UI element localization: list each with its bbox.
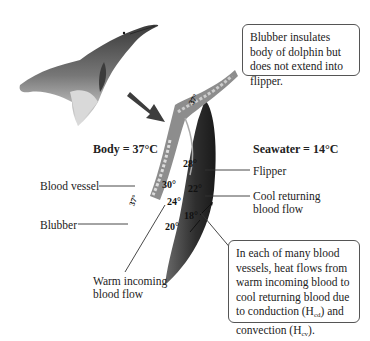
callout-heat-text-3: ). <box>308 324 315 336</box>
body-temperature-label: Body = 37°C <box>93 142 158 156</box>
warm-incoming-label-line2: blood flow <box>93 287 143 301</box>
temp-18: 18° <box>184 210 198 221</box>
cool-returning-label-line2: blood flow <box>253 202 303 216</box>
subscript-cd: cd <box>314 311 321 319</box>
temp-24: 24° <box>167 196 181 207</box>
temp-22: 22° <box>188 183 202 194</box>
dolphin-icon <box>20 25 159 126</box>
blubber-label: Blubber <box>40 218 77 232</box>
temp-30: 30° <box>162 179 176 190</box>
temp-20: 20° <box>165 221 179 232</box>
blood-vessel-label: Blood vessel <box>40 179 99 193</box>
callout-blubber-insulation: Blubber insulates body of dolphin but do… <box>242 24 360 76</box>
warm-incoming-label-line1: Warm incoming <box>93 274 167 288</box>
temp-28: 28° <box>183 158 197 169</box>
cool-returning-label-line1: Cool returning <box>253 189 320 203</box>
seawater-temperature-label: Seawater = 14°C <box>253 142 338 156</box>
arrow-icon <box>127 92 165 122</box>
callout-heat-exchange: In each of many blood vessels, heat flow… <box>228 240 360 323</box>
flipper-label: Flipper <box>253 164 286 178</box>
